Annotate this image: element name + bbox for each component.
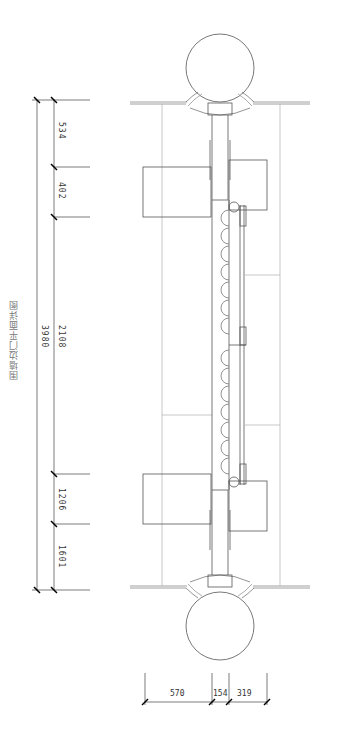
dim-319: 319 bbox=[237, 689, 251, 698]
dim-570: 570 bbox=[170, 689, 184, 698]
gate-track bbox=[212, 200, 246, 490]
gate-plan-drawing bbox=[0, 0, 357, 733]
planter-bottom-left bbox=[143, 474, 211, 524]
bottom-pillar bbox=[186, 592, 254, 660]
dim-154: 154 bbox=[213, 689, 227, 698]
planter-top-right bbox=[229, 160, 267, 210]
planter-bottom-right bbox=[229, 481, 267, 531]
dim-2108: 2108 bbox=[57, 325, 66, 348]
dim-total: 3980 bbox=[40, 325, 49, 348]
pavement-lines bbox=[162, 104, 280, 586]
dim-1601: 1601 bbox=[57, 545, 66, 568]
dim-534: 534 bbox=[57, 122, 66, 139]
bottom-post bbox=[210, 490, 230, 575]
dim-402: 402 bbox=[57, 182, 66, 199]
drawing-title: 围墙边门平面详图 bbox=[6, 300, 20, 380]
planter-top-left bbox=[143, 167, 211, 217]
top-post bbox=[210, 115, 230, 200]
dim-1206: 1206 bbox=[57, 488, 66, 511]
top-pillar bbox=[186, 34, 254, 102]
rollers bbox=[221, 210, 229, 474]
